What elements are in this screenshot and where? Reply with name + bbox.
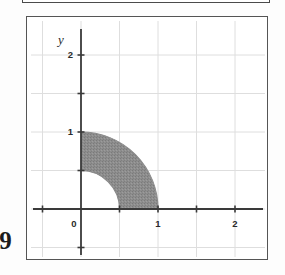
tick-label-x-2: 2 [232, 218, 237, 229]
tick-label-y-2: 2 [68, 49, 73, 60]
figure-frame: 0 1 2 1 2 y [26, 16, 268, 260]
scanned-page: .9 [0, 0, 285, 275]
tick-label-y-1: 1 [68, 126, 74, 137]
previous-figure-frame-fragment [22, 0, 270, 3]
y-axis-label: y [56, 32, 64, 47]
plot-area: 0 1 2 1 2 y [27, 17, 267, 259]
tick-label-x-1: 1 [155, 218, 161, 229]
figure-number: .9 [0, 228, 11, 253]
graph-svg: 0 1 2 1 2 y [27, 17, 268, 260]
tick-label-origin: 0 [71, 218, 76, 229]
